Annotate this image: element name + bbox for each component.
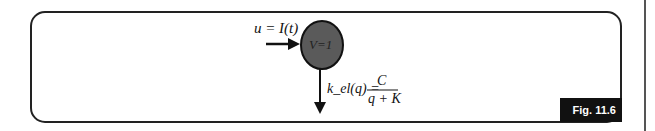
diagram-canvas	[0, 0, 655, 131]
input-label: u = I(t)	[254, 20, 298, 37]
input-arrow-head	[288, 38, 300, 50]
fraction-denominator: q + K	[368, 91, 401, 107]
elimination-arrow-head	[314, 102, 326, 114]
compartment-label: V=1	[309, 37, 332, 53]
figure-tag: Fig. 11.6	[560, 98, 622, 122]
page-margin-line	[644, 0, 646, 131]
fraction-numerator: C	[377, 73, 386, 89]
